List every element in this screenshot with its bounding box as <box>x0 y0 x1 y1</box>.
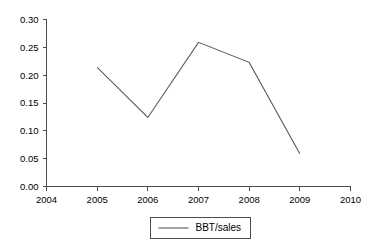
y-tick-label: 0.15 <box>20 97 39 108</box>
y-tick-label: 0.25 <box>20 42 39 53</box>
y-tick-label: 0.20 <box>20 70 39 81</box>
y-tick-label: 0.10 <box>20 125 39 136</box>
line-chart: 0.000.050.100.150.200.250.30 20042005200… <box>0 0 376 252</box>
y-tick-label: 0.30 <box>20 14 39 25</box>
x-tick-label: 2009 <box>289 194 310 205</box>
legend-label-bbt-sales: BBT/sales <box>196 222 242 233</box>
x-tick-label: 2010 <box>340 194 361 205</box>
chart-legend: BBT/sales <box>151 218 251 239</box>
x-tick-label: 2007 <box>188 194 209 205</box>
x-tick-label: 2005 <box>87 194 108 205</box>
x-tick-label: 2008 <box>239 194 260 205</box>
chart-canvas: 0.000.050.100.150.200.250.30 20042005200… <box>0 0 376 252</box>
y-tick-label: 0.00 <box>20 181 39 192</box>
x-tick-label: 2004 <box>36 194 57 205</box>
chart-background <box>0 0 376 252</box>
y-tick-label: 0.05 <box>20 153 39 164</box>
x-tick-label: 2006 <box>137 194 158 205</box>
